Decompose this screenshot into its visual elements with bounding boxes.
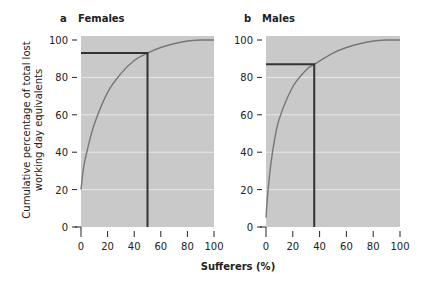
panel-letter: a [60, 13, 67, 24]
x-tick-label: 60 [154, 241, 167, 252]
panel-title: Males [262, 13, 295, 24]
x-tick-label: 0 [78, 241, 84, 252]
x-tick-label: 100 [204, 241, 223, 252]
y-tick-label: 80 [240, 72, 253, 83]
y-tick-label: 0 [247, 222, 253, 233]
x-tick-label: 100 [390, 241, 409, 252]
y-tick-label: 20 [55, 185, 68, 196]
y-tick-label: 40 [55, 147, 68, 158]
x-tick-label: 40 [313, 241, 326, 252]
y-tick-label: 40 [240, 147, 253, 158]
x-tick-label: 40 [128, 241, 141, 252]
x-tick-label: 80 [181, 241, 194, 252]
x-tick-label: 60 [340, 241, 353, 252]
y-tick-label: 100 [234, 35, 253, 46]
y-tick-label: 0 [62, 222, 68, 233]
panel-title: Females [78, 13, 125, 24]
x-tick-label: 20 [101, 241, 114, 252]
y-axis-title: Cumulative percentage of total lostworki… [21, 41, 44, 218]
y-tick-label: 60 [55, 110, 68, 121]
chart-figure: 020406080100020406080100aFemales02040608… [0, 0, 428, 286]
y-tick-label: 80 [55, 72, 68, 83]
x-tick-label: 20 [286, 241, 299, 252]
x-axis-title: Sufferers (%) [201, 261, 275, 272]
x-tick-label: 80 [367, 241, 380, 252]
panel-letter: b [244, 13, 251, 24]
x-tick-label: 0 [263, 241, 269, 252]
origin-bracket [260, 227, 266, 231]
origin-bracket [75, 227, 81, 231]
y-tick-label: 60 [240, 110, 253, 121]
y-tick-label: 20 [240, 185, 253, 196]
y-tick-label: 100 [49, 35, 68, 46]
